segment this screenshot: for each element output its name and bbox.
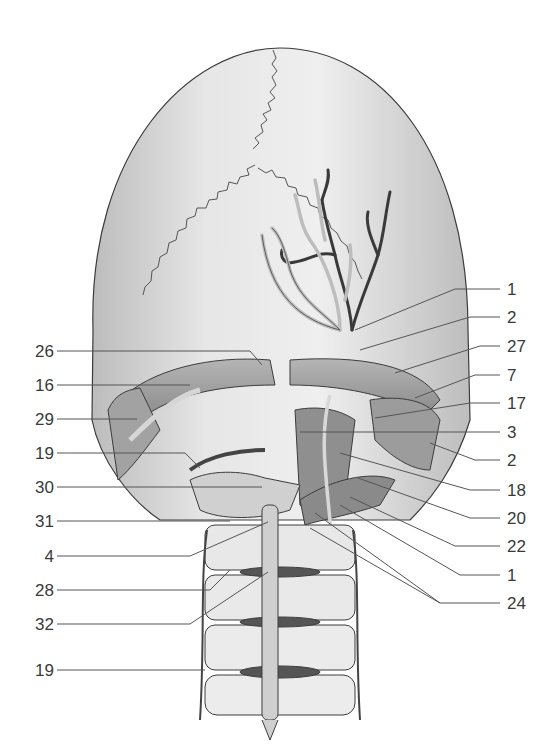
label-19-left-lower: 19 [14,662,54,679]
label-20-right: 20 [507,510,547,527]
label-3-right: 3 [507,424,547,441]
label-26-left: 26 [14,343,54,360]
cervical-spine [205,505,355,740]
skull-spine-drawing [0,0,558,744]
anatomical-illustration: 26 16 29 19 30 31 4 28 32 19 1 2 27 7 17… [0,0,558,744]
label-16-left: 16 [14,377,54,394]
label-18-right: 18 [507,482,547,499]
label-2-right-lower: 2 [507,452,547,469]
label-1-right-lower: 1 [507,567,547,584]
label-28-left: 28 [14,582,54,599]
label-7-right: 7 [507,367,547,384]
label-17-right: 17 [507,395,547,412]
label-1-right-upper: 1 [507,281,547,298]
label-29-left: 29 [14,411,54,428]
label-27-right: 27 [507,338,547,355]
label-30-left: 30 [14,479,54,496]
label-31-left: 31 [14,513,54,530]
label-24-right: 24 [507,595,547,612]
label-19-left-upper: 19 [14,445,54,462]
label-32-left: 32 [14,616,54,633]
label-22-right: 22 [507,538,547,555]
label-2-right-upper: 2 [507,309,547,326]
label-4-left: 4 [14,548,54,565]
